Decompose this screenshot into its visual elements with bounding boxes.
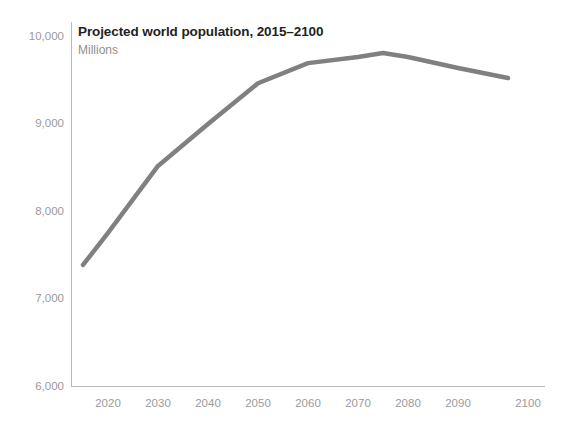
y-tick-label: 6,000 <box>2 380 64 392</box>
chart-container: Projected world population, 2015–2100 Mi… <box>0 0 564 429</box>
chart-subtitle: Millions <box>78 43 118 57</box>
y-axis-tick-labels: 10,000 9,000 8,000 7,000 6,000 <box>0 0 64 429</box>
y-axis-line <box>71 22 72 386</box>
y-tick-label: 10,000 <box>2 30 64 42</box>
y-tick-label: 9,000 <box>2 117 64 129</box>
x-tick-label: 2090 <box>428 397 488 409</box>
y-tick-label: 8,000 <box>2 205 64 217</box>
plot-area <box>0 0 564 429</box>
x-tick-label: 2100 <box>498 397 558 409</box>
chart-title: Projected world population, 2015–2100 <box>78 24 323 39</box>
y-tick-label: 7,000 <box>2 292 64 304</box>
population-line-series <box>83 53 508 265</box>
x-axis-line <box>71 386 545 387</box>
